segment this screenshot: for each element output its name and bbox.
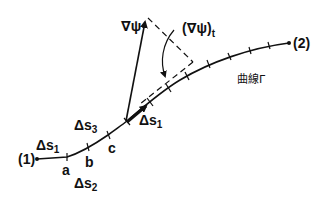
gradient-vector bbox=[126, 22, 145, 121]
endpoint-2-label: (2) bbox=[293, 35, 310, 51]
delta-s3-label: Δs3 bbox=[74, 117, 98, 135]
tick-marks bbox=[67, 42, 270, 161]
projection-curved-arrow bbox=[162, 30, 174, 76]
point-b-label: b bbox=[85, 154, 94, 170]
curve-gamma-label: 曲線Γ bbox=[237, 72, 266, 86]
endpoint-1-dot bbox=[35, 157, 39, 161]
delta-s1-left-label: Δs1 bbox=[36, 137, 60, 155]
tangential-gradient-label: (∇ψ)t bbox=[182, 20, 216, 39]
endpoint-2-dot bbox=[287, 41, 291, 45]
endpoint-1-label: (1) bbox=[18, 151, 35, 167]
diagram-canvas: (1) (2) a b c Δs1 Δs2 Δs3 Δs1 ∇ψ (∇ψ)t 曲… bbox=[0, 0, 323, 203]
delta-s2-label: Δs2 bbox=[74, 175, 98, 193]
point-c-label: c bbox=[108, 140, 116, 156]
delta-s1-vector-label: Δs1 bbox=[139, 112, 163, 130]
point-a-label: a bbox=[62, 162, 70, 178]
gradient-label: ∇ψ bbox=[121, 18, 141, 34]
